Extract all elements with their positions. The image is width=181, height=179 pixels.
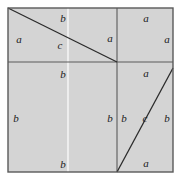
figure-canvas [0,0,181,179]
label-lower-right-a-top: a [143,68,149,79]
label-upper-left-a-left: a [16,34,22,45]
label-upper-right-a-right: a [164,34,170,45]
outer-square-fill [8,8,173,172]
label-lower-left-b-top: b [60,69,66,80]
label-lower-left-b-bottom: b [60,159,66,170]
label-upper-right-a-top: a [143,13,149,24]
label-lower-right-a-bottom: a [143,158,149,169]
label-lower-left-b-left: b [13,113,19,124]
geometric-figure: a b c a a a b b b b a b c b a [0,0,181,179]
label-lower-left-b-right: b [107,113,113,124]
label-upper-left-a-right: a [107,33,113,44]
label-lower-right-b-left: b [121,113,127,124]
label-lower-right-c-diagonal: c [143,113,148,124]
label-lower-right-b-right: b [164,113,170,124]
label-upper-left-b-top: b [60,13,66,24]
label-upper-left-c-diagonal: c [58,40,63,51]
